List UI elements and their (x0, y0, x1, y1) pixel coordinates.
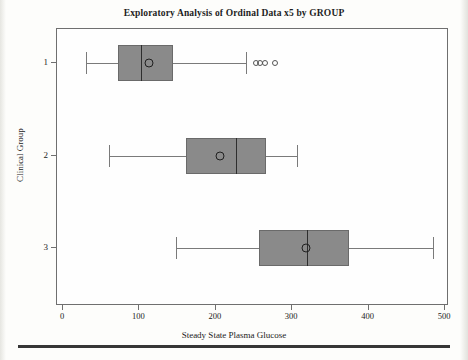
x-axis-tick-label: 400 (361, 311, 374, 321)
scan-edge-left (0, 0, 6, 360)
scan-edge-right (460, 0, 468, 360)
y-axis-tick-label: 2 (34, 150, 48, 160)
x-axis-tick (215, 305, 216, 310)
whisker-high-line (349, 248, 433, 249)
boxplot-group (57, 29, 447, 304)
x-axis-tick (444, 305, 445, 310)
whisker-low-line (176, 248, 259, 249)
plot-area (56, 28, 448, 305)
whisker-high-cap (433, 237, 434, 259)
x-axis-tick-label: 0 (60, 311, 64, 321)
x-axis-tick-label: 200 (208, 311, 221, 321)
x-axis-tick (138, 305, 139, 310)
x-axis-tick (368, 305, 369, 310)
x-axis-tick-label: 100 (132, 311, 145, 321)
x-axis-title: Steady State Plasma Glucose (0, 330, 468, 340)
y-axis-tick (51, 247, 56, 248)
y-axis-tick (51, 62, 56, 63)
whisker-low-cap (176, 237, 177, 259)
page-bottom-rule (18, 345, 450, 348)
x-axis-tick (62, 305, 63, 310)
y-axis-tick-label: 3 (34, 242, 48, 252)
chart-page: Exploratory Analysis of Ordinal Data x5 … (0, 0, 468, 360)
x-axis-tick-label: 500 (438, 311, 451, 321)
x-axis-tick (291, 305, 292, 310)
y-axis-title: Clinical Group (15, 95, 25, 215)
mean-marker (301, 243, 310, 252)
y-axis-tick-label: 1 (34, 57, 48, 67)
plot-inner (57, 29, 447, 304)
y-axis-tick (51, 155, 56, 156)
page-title: Exploratory Analysis of Ordinal Data x5 … (0, 8, 468, 18)
x-axis-tick-label: 300 (285, 311, 298, 321)
